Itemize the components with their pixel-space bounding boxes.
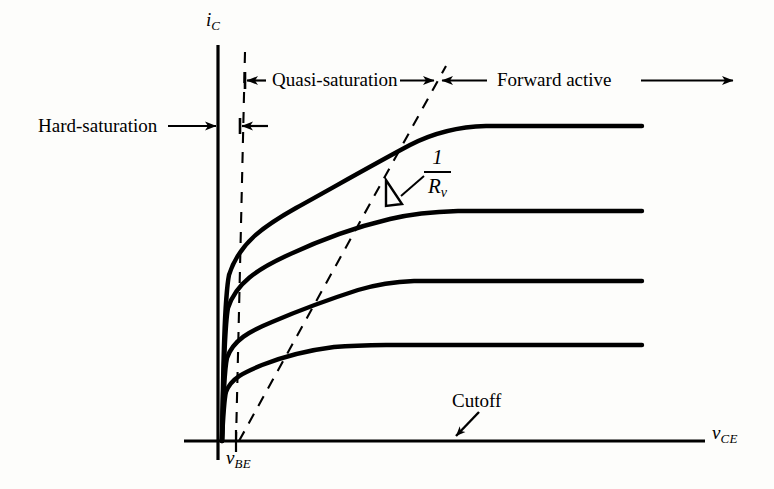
hard-saturation-label: Hard-saturation [38,116,157,135]
region-arrow-group [168,72,733,134]
curve-3 [222,211,642,441]
curve-2 [222,281,642,441]
slope-triangle-icon [386,176,424,206]
forward-active-label: Forward active [497,70,611,89]
x-axis-label: vCE [712,423,738,445]
y-axis-label: iC [206,10,220,32]
quasi-saturation-label: Quasi-saturation [272,70,398,89]
cutoff-label: Cutoff [452,391,501,410]
curve-1-lowest-base-current [222,345,642,441]
slope-denominator: Rν [424,173,451,201]
figure-canvas: iC vBE vCE Hard-saturation Quasi-saturat… [0,0,774,489]
slope-leader-line [401,176,424,196]
slope-annotation: 1 Rν [424,145,451,201]
dashed-boundary-quasi-saturation [239,66,446,441]
cutoff-arrow [456,412,479,436]
x-axis-tick-label-vbe: vBE [226,448,251,470]
slope-numerator: 1 [424,145,451,171]
region-boundaries [236,52,446,441]
